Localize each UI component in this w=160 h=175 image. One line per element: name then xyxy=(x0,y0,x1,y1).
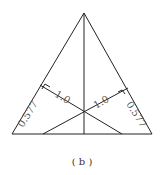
triangle-diagram: 0.577 1.0 1.0 0.577 ( b ) xyxy=(0,0,160,175)
right-side-label: 0.577 xyxy=(124,99,149,129)
right-perp-label: 1.0 xyxy=(92,93,111,110)
left-perp-label: 1.0 xyxy=(53,88,72,106)
left-perpendicular-line xyxy=(40,85,122,134)
outer-triangle xyxy=(12,13,152,134)
left-side-label: 0.577 xyxy=(15,99,40,129)
figure-caption: ( b ) xyxy=(72,156,93,167)
